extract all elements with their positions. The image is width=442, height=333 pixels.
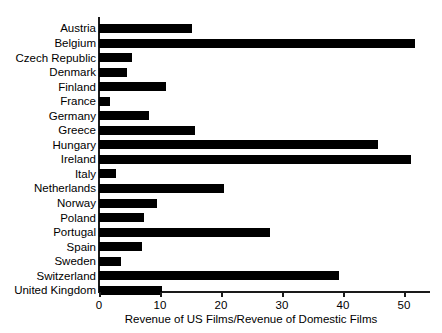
category-label: Sweden — [0, 254, 96, 268]
x-axis-title: Revenue of US Films/Revenue of Domestic … — [0, 312, 442, 326]
x-tick — [282, 292, 284, 297]
bar — [99, 97, 110, 106]
bar — [99, 126, 195, 135]
category-label: Hungary — [0, 138, 96, 152]
bar — [99, 228, 270, 237]
category-label: Norway — [0, 196, 96, 210]
bar — [99, 82, 166, 91]
category-label: Denmark — [0, 65, 96, 79]
bar — [99, 184, 224, 193]
category-label: United Kingdom — [0, 283, 96, 297]
bar-row: France — [0, 94, 442, 109]
category-label: France — [0, 94, 96, 108]
x-tick-label: 10 — [140, 298, 180, 312]
x-tick-label: 0 — [79, 298, 119, 312]
category-label: Switzerland — [0, 269, 96, 283]
x-tick — [160, 292, 162, 297]
bar — [99, 68, 127, 77]
category-label: Italy — [0, 167, 96, 181]
bar-row: Portugal — [0, 225, 442, 240]
category-label: Ireland — [0, 152, 96, 166]
x-tick — [404, 292, 406, 297]
bar-row: Sweden — [0, 254, 442, 269]
bar — [99, 286, 162, 295]
bar-row: Italy — [0, 167, 442, 182]
x-tick-label: 50 — [384, 298, 424, 312]
bar — [99, 111, 149, 120]
bar-row: Denmark — [0, 65, 442, 80]
bar — [99, 213, 144, 222]
bar — [99, 257, 121, 266]
x-tick — [221, 292, 223, 297]
bar-row: Finland — [0, 80, 442, 95]
bar-row: Spain — [0, 240, 442, 255]
bar-row: Ireland — [0, 152, 442, 167]
x-tick-label: 20 — [201, 298, 241, 312]
bar-row: Austria — [0, 21, 442, 36]
category-label: Finland — [0, 80, 96, 94]
bar-row: Greece — [0, 123, 442, 138]
category-label: Spain — [0, 240, 96, 254]
x-tick — [99, 292, 101, 297]
category-label: Austria — [0, 21, 96, 35]
x-tick-label: 30 — [262, 298, 302, 312]
bar — [99, 39, 415, 48]
bar — [99, 242, 142, 251]
bar — [99, 169, 116, 178]
category-label: Greece — [0, 123, 96, 137]
bar — [99, 140, 378, 149]
x-tick-label: 40 — [323, 298, 363, 312]
category-label: Czech Republic — [0, 51, 96, 65]
category-label: Netherlands — [0, 181, 96, 195]
bar-row: Hungary — [0, 138, 442, 153]
bar-chart: AustriaBelgiumCzech RepublicDenmarkFinla… — [0, 0, 442, 333]
bar — [99, 155, 411, 164]
x-tick — [343, 292, 345, 297]
bar-row: Netherlands — [0, 181, 442, 196]
bar-row: Czech Republic — [0, 51, 442, 66]
bar-row: Belgium — [0, 36, 442, 51]
bar — [99, 271, 339, 280]
bar-row: Norway — [0, 196, 442, 211]
category-label: Belgium — [0, 36, 96, 50]
category-label: Germany — [0, 109, 96, 123]
bar-row: Germany — [0, 109, 442, 124]
bar — [99, 24, 192, 33]
bar — [99, 53, 132, 62]
bar-row: Switzerland — [0, 269, 442, 284]
category-label: Poland — [0, 211, 96, 225]
category-label: Portugal — [0, 225, 96, 239]
bar — [99, 199, 157, 208]
bar-rows: AustriaBelgiumCzech RepublicDenmarkFinla… — [0, 0, 442, 275]
bar-row: Poland — [0, 211, 442, 226]
